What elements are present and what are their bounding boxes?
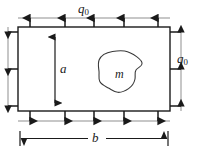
- label-dimension-a: a: [60, 62, 67, 75]
- label-hole-m: m: [115, 68, 124, 80]
- top-load-arrows: [30, 18, 158, 27]
- mechanics-figure: q0 q0 a b m: [0, 0, 197, 151]
- label-q0-right: q0: [177, 52, 188, 65]
- label-q0-top: q0: [78, 2, 89, 15]
- label-dimension-b: b: [92, 131, 99, 144]
- extension-lines: [8, 18, 181, 121]
- figure-canvas: [0, 0, 197, 151]
- left-load-arrows: [8, 32, 18, 106]
- plate-rectangle: [18, 27, 170, 111]
- right-load-arrows: [170, 32, 181, 106]
- bottom-load-arrows: [30, 111, 158, 121]
